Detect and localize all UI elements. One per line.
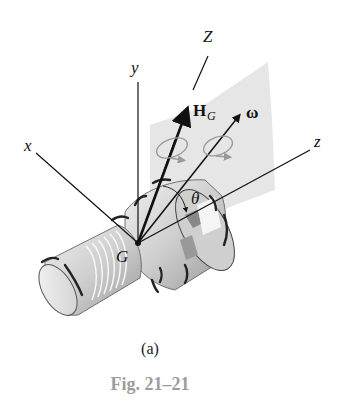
label-omega: ω (246, 103, 258, 122)
label-H-subscript: G (207, 109, 216, 123)
x-axis (36, 153, 138, 243)
label-z: z (313, 132, 321, 151)
spinning-body (31, 180, 247, 322)
label-H: H (193, 101, 206, 120)
center-of-mass-point (135, 240, 141, 246)
label-G: G (116, 247, 128, 266)
figure-caption: Fig. 21–21 (0, 374, 300, 395)
subfigure-caption: (a) (0, 340, 300, 358)
label-Z: Z (203, 27, 213, 46)
Z-axis-upper (193, 56, 208, 90)
label-x: x (23, 136, 32, 155)
label-y: y (129, 58, 139, 77)
label-theta: θ (191, 189, 199, 208)
